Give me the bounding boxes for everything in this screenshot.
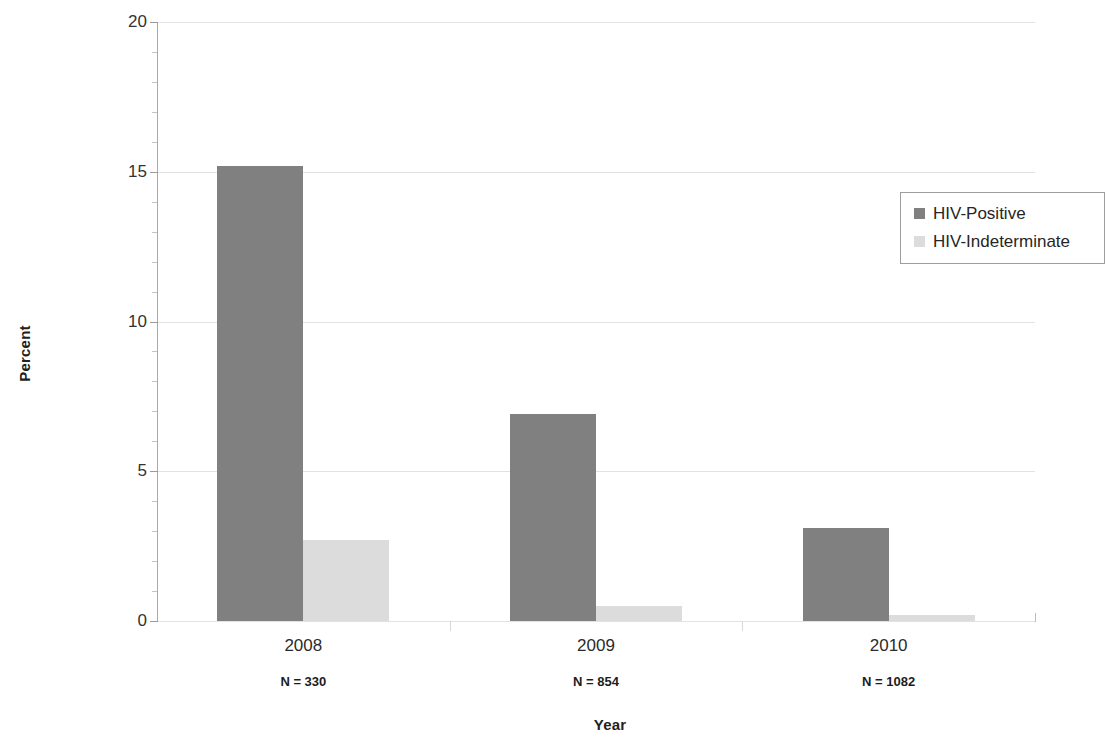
bar-undefined-hiv-positive bbox=[510, 414, 596, 621]
legend-label-hiv-positive: HIV-Positive bbox=[933, 205, 1026, 222]
x-tick-note-2010: N = 1082 bbox=[789, 674, 989, 689]
y-tick-label-10: 10 bbox=[101, 313, 147, 330]
bar-undefined-hiv-indeterminate bbox=[596, 606, 682, 621]
bars-layer bbox=[157, 22, 1035, 621]
legend-item-hiv-positive: HIV-Positive bbox=[914, 201, 1026, 225]
x-tick-note-2009: N = 854 bbox=[496, 674, 696, 689]
bar-undefined-hiv-positive bbox=[217, 166, 303, 621]
legend-swatch-hiv-positive bbox=[914, 208, 925, 219]
bar-undefined-hiv-positive bbox=[803, 528, 889, 621]
category-separator-2 bbox=[742, 621, 743, 631]
legend: HIV-Positive HIV-Indeterminate bbox=[900, 192, 1105, 264]
y-tick-label-15: 15 bbox=[101, 163, 147, 180]
y-tick-label-20: 20 bbox=[101, 13, 147, 30]
bar-undefined-hiv-indeterminate bbox=[303, 540, 389, 621]
y-tick-label-5: 5 bbox=[101, 462, 147, 479]
y-tick-label-0: 0 bbox=[101, 612, 147, 629]
legend-label-hiv-indeterminate: HIV-Indeterminate bbox=[933, 233, 1070, 250]
x-tick-label-2008: 2008 bbox=[203, 636, 403, 656]
x-tick-label-2009: 2009 bbox=[496, 636, 696, 656]
category-separator-1 bbox=[450, 621, 451, 631]
legend-item-hiv-indeterminate: HIV-Indeterminate bbox=[914, 229, 1070, 253]
x-tick-label-2010: 2010 bbox=[789, 636, 989, 656]
legend-swatch-hiv-indeterminate bbox=[914, 236, 925, 247]
gridline-0 bbox=[157, 621, 1035, 622]
x-axis-label: Year bbox=[560, 716, 660, 733]
x-tick-note-2008: N = 330 bbox=[203, 674, 403, 689]
y-axis-label: Percent bbox=[16, 304, 33, 404]
y-tick-major-0 bbox=[150, 621, 158, 622]
x-axis-end-tick bbox=[1035, 613, 1036, 622]
bar-undefined-hiv-indeterminate bbox=[889, 615, 975, 621]
